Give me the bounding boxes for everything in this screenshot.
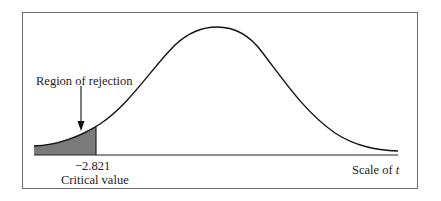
region-of-rejection-label: Region of rejection (36, 75, 133, 88)
critical-value-number: −2.821 (75, 160, 110, 173)
critical-value-label: Critical value (61, 174, 129, 187)
arrow-head-icon (78, 121, 85, 131)
axis-label-var: t (396, 163, 399, 177)
axis-label: Scale of t (352, 164, 399, 177)
axis-label-text: Scale of (352, 163, 396, 177)
